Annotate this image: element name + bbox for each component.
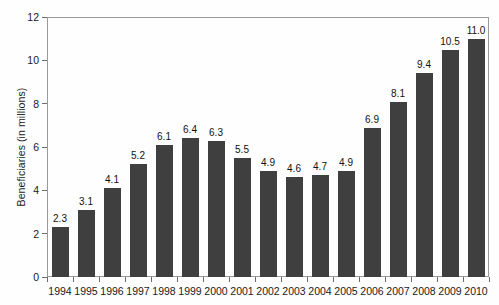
x-tick-mark bbox=[307, 277, 308, 282]
bar-value-label: 9.4 bbox=[404, 59, 444, 71]
x-tick-mark bbox=[203, 277, 204, 282]
bar-value-label: 4.1 bbox=[92, 174, 132, 186]
x-tick-mark bbox=[463, 277, 464, 282]
y-tick-label: 8 bbox=[33, 97, 39, 111]
bar bbox=[338, 171, 355, 277]
bar bbox=[130, 164, 147, 277]
x-tick-mark bbox=[359, 277, 360, 282]
bar-value-label: 8.1 bbox=[378, 88, 418, 100]
bar bbox=[286, 177, 303, 277]
bar bbox=[182, 138, 199, 277]
x-tick-mark bbox=[177, 277, 178, 282]
x-tick-mark bbox=[99, 277, 100, 282]
bar bbox=[364, 128, 381, 278]
bar bbox=[104, 188, 121, 277]
y-tick-label: 4 bbox=[33, 183, 39, 197]
bar bbox=[468, 39, 485, 277]
bar bbox=[156, 145, 173, 277]
bar bbox=[312, 175, 329, 277]
x-tick-mark bbox=[125, 277, 126, 282]
bar bbox=[416, 73, 433, 277]
y-tick-label: 2 bbox=[33, 227, 39, 241]
bar-chart: Beneficiaries (in millions) 024681012 2.… bbox=[0, 0, 499, 305]
bar bbox=[52, 227, 69, 277]
bar bbox=[390, 102, 407, 278]
x-tick-mark bbox=[333, 277, 334, 282]
x-tick-mark bbox=[437, 277, 438, 282]
y-tick-label: 0 bbox=[33, 270, 39, 284]
bar-value-label: 5.5 bbox=[222, 144, 262, 156]
bar-value-label: 5.2 bbox=[118, 150, 158, 162]
bar-value-label: 6.9 bbox=[352, 114, 392, 126]
x-tick-mark bbox=[47, 277, 48, 282]
x-tick-mark bbox=[489, 277, 490, 282]
bar-value-label: 3.1 bbox=[66, 196, 106, 208]
y-tick-label: 6 bbox=[33, 140, 39, 154]
bar-value-label: 4.9 bbox=[326, 157, 366, 169]
x-tick-mark bbox=[255, 277, 256, 282]
x-tick-mark bbox=[73, 277, 74, 282]
bar-value-label: 2.3 bbox=[40, 213, 80, 225]
y-tick-label: 12 bbox=[27, 10, 39, 24]
bar-value-label: 11.0 bbox=[456, 25, 496, 37]
bar bbox=[442, 50, 459, 278]
x-tick-mark bbox=[229, 277, 230, 282]
x-tick-label: 2010 bbox=[456, 285, 496, 298]
x-tick-mark bbox=[151, 277, 152, 282]
bar bbox=[260, 171, 277, 277]
bar bbox=[208, 141, 225, 278]
y-tick-label: 10 bbox=[27, 53, 39, 67]
bar bbox=[234, 158, 251, 277]
x-tick-mark bbox=[411, 277, 412, 282]
bar-value-label: 10.5 bbox=[430, 36, 470, 48]
x-tick-mark bbox=[385, 277, 386, 282]
bar-value-label: 6.3 bbox=[196, 127, 236, 139]
y-axis-title: Beneficiaries (in millions) bbox=[14, 17, 28, 277]
bar bbox=[78, 210, 95, 277]
x-tick-mark bbox=[281, 277, 282, 282]
